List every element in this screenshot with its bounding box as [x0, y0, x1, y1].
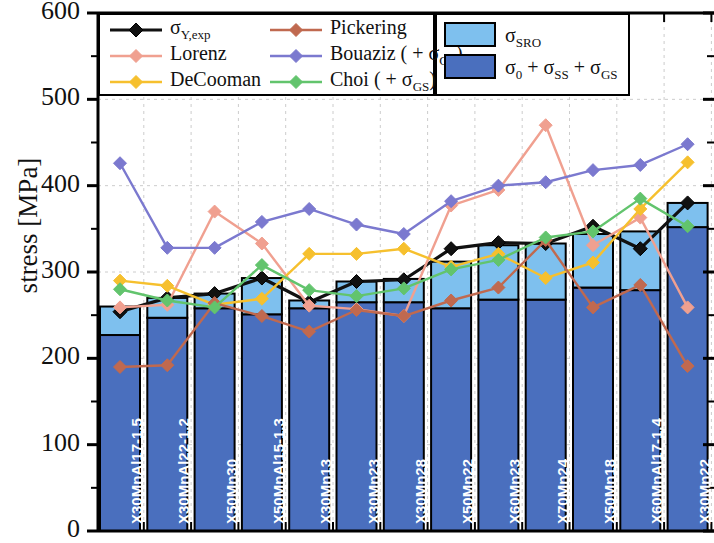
data-point	[161, 241, 174, 254]
data-point	[539, 176, 552, 189]
legend-pickering-label: Pickering	[330, 16, 407, 39]
x-category-label: X70Mn24	[554, 459, 571, 524]
data-point	[350, 218, 363, 231]
y-tick-label: 100	[8, 428, 80, 458]
x-category-label: X50MnAl15-1.3	[270, 418, 287, 524]
data-point	[303, 202, 316, 215]
y-tick-label: 400	[8, 169, 80, 199]
chart-figure: stress [MPa] 0100200300400500600X30MnAl1…	[0, 0, 714, 543]
legend-choi-marker	[268, 71, 324, 93]
data-point	[114, 283, 127, 296]
legend-lorenz-marker	[108, 45, 164, 67]
legend-swatch-sro	[444, 22, 496, 47]
legend-decooman-marker	[108, 71, 164, 93]
x-category-label: X60Mn23	[506, 459, 523, 524]
x-category-label: X30Mn22	[696, 459, 713, 524]
x-category-label: X30MnAl22-1.2	[175, 418, 192, 524]
legend-swatch-base-label: σ0 + σSS + σGS	[505, 56, 618, 83]
data-point	[208, 241, 221, 254]
legend-swatch-sro-label: σSRO	[505, 24, 541, 51]
data-point	[350, 247, 363, 260]
y-tick-label: 300	[8, 255, 80, 285]
y-tick-label: 500	[8, 82, 80, 112]
x-category-label: X50Mn30	[223, 459, 240, 524]
x-category-label: X30MnAl17-1.5	[128, 418, 145, 524]
y-tick-label: 200	[8, 341, 80, 371]
x-category-label: X30Mn23	[365, 459, 382, 524]
legend-bouaziz-marker	[268, 45, 324, 67]
data-point	[114, 157, 127, 170]
x-category-label: X60MnAl17-1.4	[648, 418, 665, 524]
legend-decooman-label: DeCooman	[170, 68, 261, 91]
y-axis-title: stress [MPa]	[13, 136, 44, 316]
y-tick-label: 0	[8, 514, 80, 543]
legend-swatch-base	[444, 54, 496, 79]
x-category-label: X50Mn18	[601, 459, 618, 524]
data-point	[587, 164, 600, 177]
data-point	[255, 215, 268, 228]
data-point	[681, 138, 694, 151]
legend-bouaziz-label: Bouaziz ( + σGS)	[330, 42, 463, 69]
data-point	[208, 205, 221, 218]
legend-sigma-y-exp-label: σY,exp	[170, 16, 211, 43]
legend-choi-label: Choi ( + σGS)	[330, 68, 436, 95]
legend-lorenz-label: Lorenz	[170, 42, 227, 65]
data-point	[303, 284, 316, 297]
data-point	[161, 279, 174, 292]
x-category-label: X30Mn28	[412, 459, 429, 524]
data-point	[634, 158, 647, 171]
y-tick-label: 600	[8, 0, 80, 26]
legend-pickering-marker	[268, 19, 324, 41]
x-category-label: X50Mn22	[459, 459, 476, 524]
legend-sigma-y-exp-marker	[108, 19, 164, 41]
x-category-label: X30Mn13	[317, 459, 334, 524]
data-point	[397, 242, 410, 255]
